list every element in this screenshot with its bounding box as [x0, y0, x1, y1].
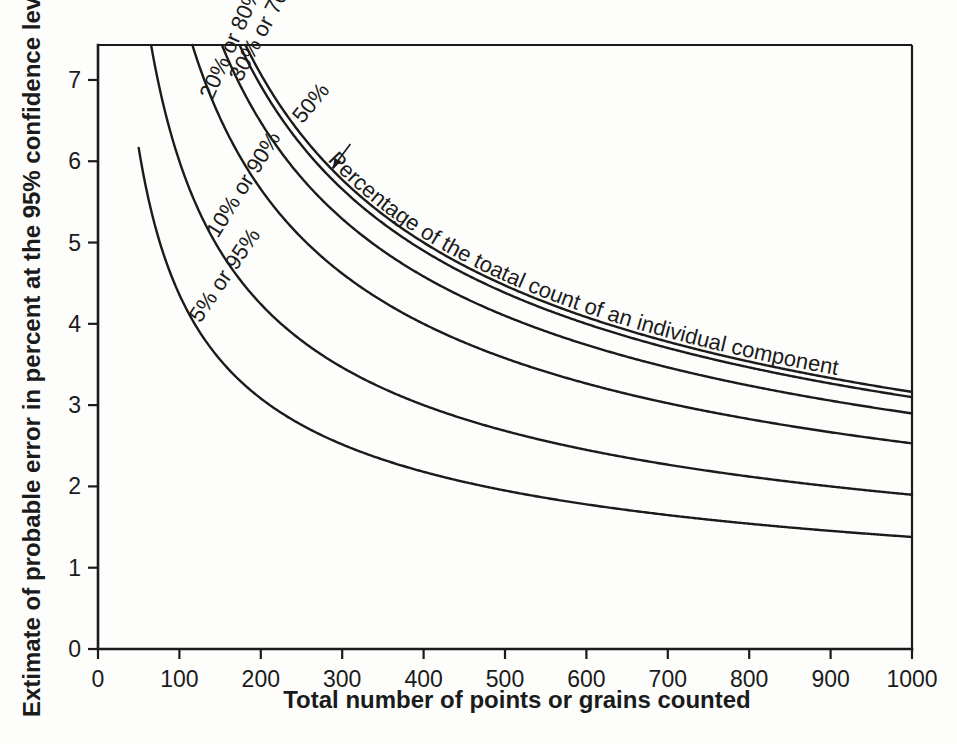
y-tick-label-1: 1 [68, 555, 81, 581]
y-axis-tick-labels: 01234567 [68, 67, 81, 662]
y-tick-label-7: 7 [68, 67, 81, 93]
chart-figure: 01234567 0100200300400500600700800900100… [0, 0, 957, 744]
y-tick-label-4: 4 [68, 311, 81, 337]
x-axis-ticks [98, 649, 912, 659]
curve-40-or-60 [240, 45, 912, 397]
x-tick-label-900: 900 [811, 666, 849, 692]
curve-label-5-or-95: 5% or 95% [184, 224, 265, 327]
y-tick-label-2: 2 [68, 473, 81, 499]
y-axis-title: Extimate of probable error in percent at… [18, 0, 45, 717]
curve-labels: 50%30% or 70%20% or 80%10% or 90%5% or 9… [184, 0, 335, 327]
probable-error-chart: 01234567 0100200300400500600700800900100… [0, 0, 957, 744]
y-tick-label-0: 0 [68, 636, 81, 662]
x-tick-label-100: 100 [160, 666, 198, 692]
x-tick-label-200: 200 [242, 666, 280, 692]
annotation-group: Percentage of the toatal count of an ind… [324, 144, 912, 388]
x-tick-label-1000: 1000 [886, 666, 937, 692]
y-tick-label-6: 6 [68, 148, 81, 174]
curve-50 [245, 45, 912, 392]
x-axis-title: Total number of points or grains counted [283, 686, 751, 713]
curve-label-50: 50% [287, 78, 334, 128]
y-axis-ticks [88, 80, 98, 649]
y-tick-label-3: 3 [68, 392, 81, 418]
y-tick-label-5: 5 [68, 230, 81, 256]
x-tick-label-0: 0 [92, 666, 105, 692]
curve-5-or-95 [139, 148, 912, 537]
